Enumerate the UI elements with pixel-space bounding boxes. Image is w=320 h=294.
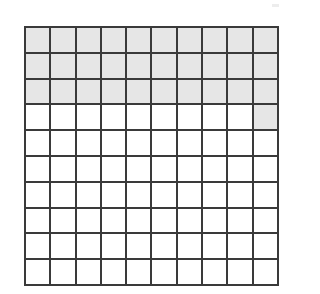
grid-cell-unshaded	[26, 260, 49, 284]
hundredths-grid	[24, 26, 279, 286]
grid-cell-unshaded	[228, 260, 251, 284]
grid-cell-unshaded	[26, 131, 49, 155]
grid-cell-unshaded	[228, 183, 251, 207]
grid-cell-unshaded	[127, 260, 150, 284]
grid-cell-unshaded	[127, 105, 150, 129]
grid-cell-unshaded	[77, 105, 100, 129]
grid-cell-unshaded	[102, 209, 125, 233]
grid-cell-unshaded	[178, 157, 201, 181]
grid-cell-shaded	[228, 28, 251, 52]
grid-cell-unshaded	[203, 157, 226, 181]
grid-cell-shaded	[77, 54, 100, 78]
grid-cell-unshaded	[203, 105, 226, 129]
grid-cell-unshaded	[203, 209, 226, 233]
grid-cell-shaded	[152, 54, 175, 78]
grid-cell-unshaded	[102, 157, 125, 181]
grid-cell-unshaded	[51, 260, 74, 284]
grid-cell-shaded	[26, 28, 49, 52]
grid-cell-shaded	[127, 28, 150, 52]
grid-cell-shaded	[178, 28, 201, 52]
grid-cell-unshaded	[102, 234, 125, 258]
grid-cell-unshaded	[77, 209, 100, 233]
grid-cell-unshaded	[254, 183, 277, 207]
grid-cell-unshaded	[254, 260, 277, 284]
grid-cell-unshaded	[254, 234, 277, 258]
grid-cell-unshaded	[102, 131, 125, 155]
grid-cell-unshaded	[254, 157, 277, 181]
grid-cell-shaded	[51, 80, 74, 104]
grid-cell-unshaded	[203, 234, 226, 258]
grid-cell-unshaded	[51, 157, 74, 181]
grid-cell-unshaded	[203, 183, 226, 207]
grid-cell-unshaded	[26, 157, 49, 181]
grid-cell-unshaded	[26, 105, 49, 129]
grid-cell-shaded	[203, 80, 226, 104]
grid-cell-unshaded	[51, 131, 74, 155]
grid-cell-unshaded	[228, 157, 251, 181]
grid-cell-shaded	[127, 80, 150, 104]
grid-cell-unshaded	[178, 131, 201, 155]
grid-cell-unshaded	[254, 209, 277, 233]
grid-cell-shaded	[178, 80, 201, 104]
grid-cell-unshaded	[178, 260, 201, 284]
grid-cell-shaded	[51, 54, 74, 78]
grid-cell-shaded	[51, 28, 74, 52]
grid-cell-shaded	[26, 54, 49, 78]
grid-cell-unshaded	[77, 157, 100, 181]
grid-cell-shaded	[228, 80, 251, 104]
grid-cell-unshaded	[178, 209, 201, 233]
grid-cell-shaded	[127, 54, 150, 78]
grid-cell-shaded	[77, 28, 100, 52]
grid-cell-unshaded	[228, 234, 251, 258]
grid-cell-unshaded	[77, 131, 100, 155]
grid-cell-unshaded	[51, 105, 74, 129]
grid-cell-unshaded	[203, 131, 226, 155]
grid-cell-unshaded	[254, 131, 277, 155]
scan-artifact-mark	[272, 4, 279, 7]
grid-cell-unshaded	[152, 105, 175, 129]
grid-cell-shaded	[228, 54, 251, 78]
grid-cell-unshaded	[26, 183, 49, 207]
grid-cell-shaded	[152, 80, 175, 104]
grid-cell-shaded	[152, 28, 175, 52]
grid-cell-unshaded	[152, 157, 175, 181]
grid-cell-unshaded	[152, 260, 175, 284]
grid-cell-unshaded	[127, 209, 150, 233]
grid-cell-unshaded	[127, 234, 150, 258]
grid-cell-shaded	[77, 80, 100, 104]
grid-cell-unshaded	[51, 209, 74, 233]
grid-cell-shaded	[102, 80, 125, 104]
grid-cell-unshaded	[102, 183, 125, 207]
grid-cell-unshaded	[77, 260, 100, 284]
grid-cell-shaded	[254, 54, 277, 78]
grid-cell-shaded	[203, 54, 226, 78]
grid-cell-shaded	[203, 28, 226, 52]
grid-cell-unshaded	[178, 234, 201, 258]
grid-cell-unshaded	[178, 105, 201, 129]
grid-cell-unshaded	[77, 183, 100, 207]
grid-cell-unshaded	[127, 157, 150, 181]
grid-cell-unshaded	[152, 183, 175, 207]
grid-cell-unshaded	[178, 183, 201, 207]
grid-cell-unshaded	[228, 131, 251, 155]
grid-cell-shaded	[254, 105, 277, 129]
grid-cell-unshaded	[203, 260, 226, 284]
grid-cell-shaded	[26, 80, 49, 104]
grid-cell-unshaded	[228, 209, 251, 233]
grid-cell-unshaded	[127, 183, 150, 207]
grid-cell-unshaded	[228, 105, 251, 129]
grid-cell-shaded	[102, 28, 125, 52]
grid-cell-unshaded	[152, 234, 175, 258]
grid-cell-unshaded	[51, 234, 74, 258]
grid-cell-shaded	[254, 28, 277, 52]
grid-cell-shaded	[178, 54, 201, 78]
grid-cell-unshaded	[152, 131, 175, 155]
grid-cell-unshaded	[77, 234, 100, 258]
grid-cell-unshaded	[102, 105, 125, 129]
grid-cell-unshaded	[26, 209, 49, 233]
grid-cell-unshaded	[51, 183, 74, 207]
grid-cell-unshaded	[127, 131, 150, 155]
grid-cell-shaded	[102, 54, 125, 78]
grid-cell-unshaded	[102, 260, 125, 284]
grid-cell-unshaded	[26, 234, 49, 258]
